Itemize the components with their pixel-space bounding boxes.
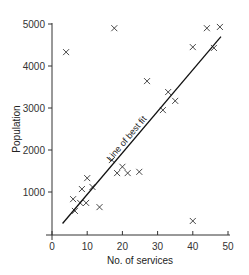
x-axis-label: No. of services	[107, 255, 173, 266]
line-of-best-fit: Line of best fit	[63, 37, 221, 224]
trendline-label: Line of best fit	[105, 114, 149, 164]
data-point-x-marker	[125, 170, 131, 176]
data-point-x-marker	[114, 170, 120, 176]
data-point-x-marker	[204, 25, 210, 31]
x-tick-label: 20	[117, 241, 129, 252]
data-point-x-marker	[84, 175, 90, 181]
x-tick-label: 0	[49, 241, 55, 252]
data-point-x-marker	[111, 25, 117, 31]
data-point-x-marker	[165, 89, 171, 95]
x-tick-label: 50	[222, 241, 234, 252]
data-point-x-marker	[136, 169, 142, 175]
scatter-chart: 0102030405010002000300040005000 Line of …	[0, 0, 249, 275]
y-tick-label: 5000	[23, 19, 46, 30]
data-point-x-marker	[79, 186, 85, 192]
data-point-x-marker	[83, 200, 89, 206]
y-axis-label: Population	[11, 105, 22, 152]
data-point-x-marker	[217, 24, 223, 30]
data-point-x-marker	[190, 218, 196, 224]
data-point-x-marker	[190, 44, 196, 50]
y-tick-label: 1000	[23, 187, 46, 198]
x-tick-label: 30	[152, 241, 164, 252]
y-tick-label: 2000	[23, 145, 46, 156]
data-point-x-marker	[97, 204, 103, 210]
x-tick-label: 40	[187, 241, 199, 252]
y-tick-label: 4000	[23, 61, 46, 72]
data-point-x-marker	[119, 164, 125, 170]
y-tick-label: 3000	[23, 103, 46, 114]
data-point-x-marker	[172, 98, 178, 104]
data-point-x-marker	[144, 78, 150, 84]
x-tick-label: 10	[82, 241, 94, 252]
data-point-x-marker	[63, 49, 69, 55]
data-point-x-marker	[70, 196, 76, 202]
